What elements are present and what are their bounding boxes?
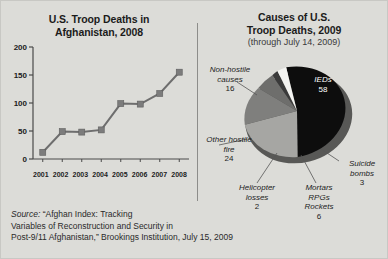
pie-label-ieds-value: 58 — [293, 85, 353, 95]
source-line-3: Post-9/11 Afghanistan,” Brookings Instit… — [11, 232, 261, 244]
pie-label-mortars-rpgs-rockets: Mortars RPGs Rockets 6 — [295, 183, 343, 221]
pie-label-non-hostile-l1: Non-hostile — [197, 65, 263, 75]
x-axis-labels: 2001 2002 2003 2004 2005 2006 2007 2008 — [31, 171, 189, 178]
vertical-divider — [197, 23, 198, 201]
y-tick-label-100: 100 — [14, 99, 28, 108]
source-note: Source: “Afghan Index: Tracking Variable… — [11, 209, 261, 244]
x-axis-label-2005: 2005 — [110, 171, 130, 178]
y-tick-label-50: 50 — [18, 127, 27, 136]
left-chart-title: U.S. Troop Deaths in Afghanistan, 2008 — [11, 13, 187, 38]
pie-label-other-hostile-fire: Other hostile fire 24 — [195, 135, 263, 164]
x-axis-label-2006: 2006 — [130, 171, 150, 178]
x-axis-label-2003: 2003 — [71, 171, 91, 178]
data-point-2002 — [59, 129, 65, 135]
causes-pie-chart: IEDs 58 Non-hostile causes 16 Other host… — [199, 49, 388, 209]
pie-label-mortars-l3: Rockets — [295, 202, 343, 212]
x-axis-label-2004: 2004 — [90, 171, 110, 178]
pie-label-other-hostile-value: 24 — [195, 154, 263, 164]
right-chart-title-line1: Causes of U.S. — [205, 11, 383, 24]
pie-label-suicide-bombs: Suicide bombs 3 — [339, 159, 385, 188]
pie-label-mortars-l2: RPGs — [295, 193, 343, 203]
pie-label-other-hostile-l2: fire — [195, 145, 263, 155]
troop-deaths-line-chart: 200 150 100 50 0 — [9, 45, 191, 169]
source-line-1-rest: “Afghan Index: Tracking — [40, 209, 132, 219]
x-axis-label-2001: 2001 — [31, 171, 51, 178]
pie-label-mortars-value: 6 — [295, 212, 343, 222]
pie-label-suicide-l2: bombs — [339, 169, 385, 179]
pie-label-mortars-l1: Mortars — [295, 183, 343, 193]
source-line-2: Variables of Reconstruction and Security… — [11, 221, 261, 233]
pie-label-ieds-name: IEDs — [293, 75, 353, 85]
x-axis-label-2007: 2007 — [150, 171, 170, 178]
source-line-1: Source: “Afghan Index: Tracking — [11, 209, 261, 221]
data-point-2007 — [157, 91, 163, 97]
infographic-panel: U.S. Troop Deaths in Afghanistan, 2008 2… — [0, 0, 388, 259]
source-lead: Source: — [11, 209, 40, 219]
pie-label-other-hostile-l1: Other hostile — [195, 135, 263, 145]
left-chart-title-line2: Afghanistan, 2008 — [11, 26, 187, 39]
left-chart-title-line1: U.S. Troop Deaths in — [11, 13, 187, 26]
x-axis-label-2008: 2008 — [169, 171, 189, 178]
pie-label-non-hostile-causes: Non-hostile causes 16 — [197, 65, 263, 94]
pie-label-ieds: IEDs 58 — [293, 75, 353, 94]
pie-label-suicide-value: 3 — [339, 178, 385, 188]
pie-label-helicopter-losses: Helicopter losses 2 — [225, 183, 289, 212]
x-axis-label-2002: 2002 — [51, 171, 71, 178]
right-chart-subtitle: (through July 14, 2009) — [205, 37, 383, 48]
data-point-2005 — [118, 101, 124, 107]
pie-label-helicopter-l1: Helicopter — [225, 183, 289, 193]
data-line — [43, 72, 180, 152]
y-tick-label-200: 200 — [14, 45, 28, 52]
data-point-2006 — [137, 101, 143, 107]
y-tick-label-150: 150 — [14, 71, 28, 80]
data-point-2008 — [176, 69, 182, 75]
pie-label-non-hostile-l2: causes — [197, 75, 263, 85]
pie-label-helicopter-l2: losses — [225, 193, 289, 203]
data-point-2001 — [40, 149, 46, 155]
right-chart-title: Causes of U.S. Troop Deaths, 2009 — [205, 11, 383, 36]
pie-label-suicide-l1: Suicide — [339, 159, 385, 169]
pie-label-non-hostile-value: 16 — [197, 84, 263, 94]
y-tick-label-0: 0 — [23, 155, 28, 164]
data-point-2003 — [79, 129, 85, 135]
right-chart-title-line2: Troop Deaths, 2009 — [205, 24, 383, 37]
data-point-2004 — [98, 127, 104, 133]
